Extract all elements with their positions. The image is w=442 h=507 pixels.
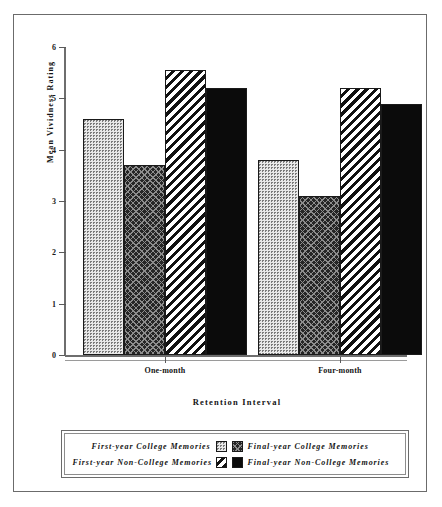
- y-tick-label-2: 2: [52, 248, 56, 257]
- cross-hatch-dark-swatch-icon: [232, 441, 243, 452]
- x-axis-title: Retention Interval: [47, 397, 427, 407]
- diagonal-stripe-swatch-icon: [216, 457, 227, 468]
- y-tick-label-1: 1: [52, 299, 56, 308]
- y-tick-label-3: 3: [52, 197, 56, 206]
- x-tick-one-month: [165, 357, 166, 363]
- legend-label-first-year-college: First-year College Memories: [73, 442, 211, 451]
- bar-four-month-final-year-college[interactable]: [299, 196, 340, 355]
- legend-inner-frame: First-year College Memories Final-year C…: [64, 433, 406, 475]
- legend-row-college: First-year College Memories Final-year C…: [71, 441, 399, 452]
- x-tick-four-month: [340, 357, 341, 363]
- legend-box: First-year College Memories Final-year C…: [61, 430, 409, 478]
- solid-black-swatch-icon: [232, 457, 243, 468]
- legend-label-final-year-college: Final-year College Memories: [248, 442, 398, 451]
- x-tick-label-one-month: One-month: [145, 366, 186, 375]
- x-tick-label-four-month: Four-month: [318, 366, 361, 375]
- bar-four-month-final-year-noncollege[interactable]: [381, 104, 422, 356]
- y-tick-label-0: 0: [52, 351, 56, 360]
- y-tick-label-6: 6: [52, 43, 56, 52]
- bar-four-month-first-year-college[interactable]: [258, 160, 299, 355]
- bar-one-month-first-year-college[interactable]: [83, 119, 124, 355]
- plot-region: 6 5 4 3 2 1 0: [47, 35, 407, 355]
- x-axis-line-secondary: [65, 360, 407, 361]
- dotted-light-swatch-icon: [216, 441, 227, 452]
- y-axis-title: Mean Vividness Rating: [46, 61, 55, 163]
- legend-row-noncollege: First-year Non-College Memories Final-ye…: [71, 457, 399, 468]
- legend-label-first-year-noncollege: First-year Non-College Memories: [73, 458, 211, 467]
- bar-one-month-final-year-noncollege[interactable]: [206, 88, 247, 355]
- bar-one-month-first-year-noncollege[interactable]: [165, 70, 206, 355]
- bar-one-month-final-year-college[interactable]: [124, 165, 165, 355]
- figure-outer-frame: 6 5 4 3 2 1 0: [13, 14, 427, 492]
- x-axis-line: [65, 355, 407, 357]
- legend-label-final-year-noncollege: Final-year Non-College Memories: [248, 458, 398, 467]
- bar-four-month-first-year-noncollege[interactable]: [340, 88, 381, 355]
- bars-layer: [65, 47, 407, 355]
